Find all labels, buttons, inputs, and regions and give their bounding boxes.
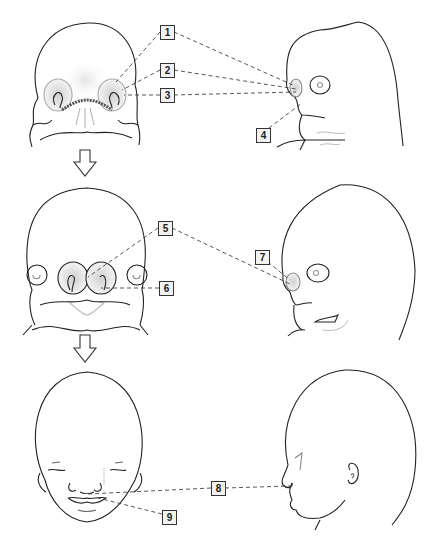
label-1: 1 bbox=[160, 25, 175, 40]
arrow-down-icon bbox=[74, 150, 96, 176]
stage3-frontal-head bbox=[35, 372, 142, 522]
label-8: 8 bbox=[211, 481, 226, 496]
label-2: 2 bbox=[160, 63, 175, 78]
stage1-frontal-head bbox=[30, 23, 140, 147]
label-6: 6 bbox=[159, 281, 174, 296]
label-5: 5 bbox=[158, 221, 173, 236]
stage2-frontal-head bbox=[23, 188, 148, 335]
embryology-face-diagram bbox=[0, 0, 435, 543]
label-4: 4 bbox=[256, 128, 271, 143]
arrow-down-icon bbox=[74, 335, 96, 362]
label-3: 3 bbox=[160, 88, 175, 103]
stage2-lateral-head bbox=[282, 185, 415, 340]
label-7: 7 bbox=[255, 250, 270, 265]
stage1-lateral-head bbox=[277, 22, 403, 150]
stage3-lateral-head bbox=[282, 370, 416, 530]
label-9: 9 bbox=[162, 510, 177, 525]
